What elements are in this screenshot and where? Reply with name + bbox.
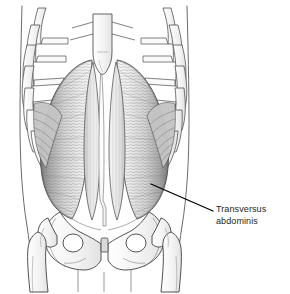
midline-thigh-gap xyxy=(78,270,131,292)
callout-label: Transversus abdominis xyxy=(216,203,290,227)
linea-alba xyxy=(99,62,106,226)
callout-label-line-1: Transversus xyxy=(216,203,290,215)
pubic-symphysis xyxy=(101,238,108,252)
sternum xyxy=(93,14,112,74)
anatomy-figure: Transversus abdominis xyxy=(0,0,290,294)
callout-label-line-2: abdominis xyxy=(216,215,290,227)
anatomy-illustration xyxy=(0,0,290,294)
